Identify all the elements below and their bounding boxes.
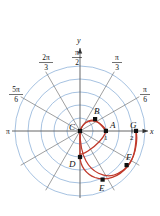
point-marker-B xyxy=(93,117,97,121)
point-label-A: A xyxy=(109,120,116,130)
radial-tick-label-1: 1 xyxy=(104,134,108,142)
x-axis-label: x xyxy=(149,127,154,136)
point-label-C: C xyxy=(69,122,76,132)
polar-plot-figure: A B C D E F G x y 1 2 π 2 π 3 π 6 xyxy=(0,0,160,216)
angle-label-pi-over-3: π 3 xyxy=(112,53,122,72)
point-label-G: G xyxy=(130,120,137,130)
angle-label-pi-over-2-numerator: π xyxy=(75,48,79,57)
point-label-B: B xyxy=(94,106,100,116)
point-label-F: F xyxy=(125,152,132,162)
angle-label-5pi-over-6-numerator: 5π xyxy=(12,85,20,94)
point-marker-A xyxy=(104,129,108,133)
spiral-curve-path xyxy=(80,120,137,176)
angle-label-5pi-over-6-denominator: 6 xyxy=(14,95,18,104)
angle-label-pi-over-3-denominator: 3 xyxy=(115,63,119,72)
point-marker-F xyxy=(125,163,129,167)
angle-label-pi-over-3-numerator: π xyxy=(115,53,119,62)
spiral-curve xyxy=(80,120,137,176)
y-axis-label: y xyxy=(76,36,81,45)
angle-label-5pi-over-6: 5π 6 xyxy=(9,85,23,104)
point-marker-C xyxy=(78,129,82,133)
point-label-E: E xyxy=(98,183,105,193)
angle-label-pi-over-2-denominator: 2 xyxy=(75,58,79,67)
angle-label-2pi-over-3: 2π 3 xyxy=(39,53,53,72)
point-marker-E xyxy=(101,178,105,182)
angle-label-2pi-over-3-numerator: 2π xyxy=(42,53,50,62)
angle-label-pi-over-6-numerator: π xyxy=(143,85,147,94)
point-marker-D xyxy=(78,155,82,159)
angle-label-pi-over-6-denominator: 6 xyxy=(143,95,147,104)
radial-tick-label-2: 2 xyxy=(130,134,134,142)
angle-label-pi-over-6: π 6 xyxy=(140,85,150,104)
angle-label-2pi-over-3-denominator: 3 xyxy=(44,63,48,72)
angle-label-pi: π xyxy=(6,127,10,136)
point-label-D: D xyxy=(68,159,76,169)
